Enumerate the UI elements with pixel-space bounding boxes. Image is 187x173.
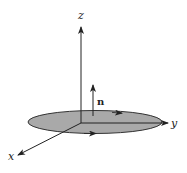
x-axis-label: x [8, 150, 15, 163]
shaded-disk [28, 111, 162, 134]
y-axis-label: y [170, 117, 178, 130]
z-axis-label: z [77, 9, 84, 22]
normal-vector-label: n [97, 96, 105, 107]
coordinate-diagram: z y x n [0, 0, 187, 173]
